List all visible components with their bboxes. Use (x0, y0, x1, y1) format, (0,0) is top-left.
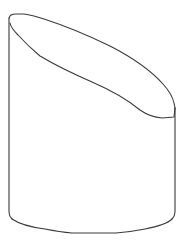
right-edge (172, 108, 175, 219)
cylinder-svg (0, 0, 188, 243)
top-face-upper-arc (9, 14, 175, 108)
cylinder-drawing (0, 0, 188, 243)
bottom-base-arc (12, 219, 172, 233)
left-edge (9, 18, 12, 219)
